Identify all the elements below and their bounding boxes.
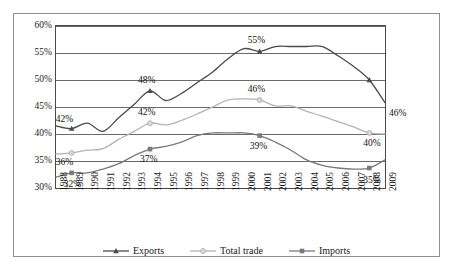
x-tick-1991: 1991 (107, 172, 117, 191)
x-tick-2003: 2003 (295, 172, 305, 191)
square-marker (289, 246, 315, 256)
x-tick-2001: 2001 (264, 172, 274, 191)
legend-item-imports[interactable]: Imports (289, 245, 350, 256)
data-label-imports-2008: 35% (363, 176, 380, 186)
x-tick-2002: 2002 (279, 172, 289, 191)
y-tick-50pct: 50% (20, 75, 52, 85)
y-tick-45pct: 45% (20, 102, 52, 112)
x-tick-1992: 1992 (123, 172, 133, 191)
x-tick-1993: 1993 (138, 172, 148, 191)
marker-total-trade-1994 (148, 121, 153, 126)
x-tick-1994: 1994 (154, 172, 164, 191)
data-label-imports-2001: 39% (250, 142, 267, 152)
data-label-total-trade-2008: 40% (363, 139, 380, 149)
data-label-imports-1989: 32% (64, 180, 81, 190)
gridlines (56, 27, 385, 189)
chart-plot-area (0, 0, 453, 274)
x-tick-1998: 1998 (217, 172, 227, 191)
x-tick-1990: 1990 (91, 172, 101, 191)
series-line-imports (56, 133, 385, 177)
triangle-marker (103, 246, 129, 256)
chart-legend: ExportsTotal tradeImports (13, 245, 440, 256)
legend-label-total-trade: Total trade (220, 245, 263, 256)
data-label-exports-1989: 42% (56, 115, 73, 125)
marker-imports-1989 (69, 171, 74, 176)
legend-label-imports: Imports (319, 245, 350, 256)
legend-label-exports: Exports (133, 245, 164, 256)
legend-item-exports[interactable]: Exports (103, 245, 164, 256)
series-markers (69, 48, 372, 175)
x-tick-1997: 1997 (201, 172, 211, 191)
data-label-total-trade-1994: 42% (138, 108, 155, 118)
x-tick-2000: 2000 (248, 172, 258, 191)
x-tick-1999: 1999 (232, 172, 242, 191)
chart-figure: 30%35%40%45%50%55%60% 198819891990199119… (0, 0, 453, 274)
data-label-imports-1994: 37% (140, 155, 157, 165)
marker-total-trade-2001 (257, 98, 262, 103)
y-tick-30pct: 30% (20, 183, 52, 193)
data-label-exports-2001: 55% (248, 36, 265, 46)
x-tick-2004: 2004 (311, 172, 321, 191)
y-tick-35pct: 35% (20, 156, 52, 166)
series-lines (56, 46, 385, 177)
y-tick-40pct: 40% (20, 129, 52, 139)
x-tick-1995: 1995 (170, 172, 180, 191)
data-label-total-trade-1989: 36% (56, 158, 73, 168)
marker-total-trade-2008 (367, 131, 372, 136)
data-label-exports-2009: 46% (389, 109, 406, 119)
x-tick-2006: 2006 (342, 172, 352, 191)
marker-total-trade-1989 (69, 151, 74, 156)
x-tick-1996: 1996 (185, 172, 195, 191)
marker-imports-2001 (257, 133, 262, 138)
x-tick-2005: 2005 (326, 172, 336, 191)
data-label-total-trade-2001: 46% (248, 85, 265, 95)
marker-imports-2008 (367, 166, 372, 171)
x-tick-2009: 2009 (389, 172, 399, 191)
series-line-exports (56, 46, 385, 132)
y-tick-60pct: 60% (20, 21, 52, 31)
marker-imports-1994 (148, 147, 153, 152)
data-label-exports-1994: 48% (138, 76, 155, 86)
y-tick-55pct: 55% (20, 48, 52, 58)
legend-item-total-trade[interactable]: Total trade (190, 245, 263, 256)
circle-marker (190, 246, 216, 256)
